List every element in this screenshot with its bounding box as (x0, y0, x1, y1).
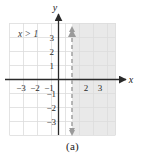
xtick-label-3: 3 (98, 83, 103, 93)
figure-caption: (a) (0, 140, 145, 152)
figure-container: y x x > 1 −3 −2 −1 2 3 3 2 1 −1 −2 −3 (a… (0, 0, 145, 163)
coordinate-plane: y x x > 1 −3 −2 −1 2 3 3 2 1 −1 −2 −3 (0, 0, 145, 140)
xtick-label-neg2: −2 (30, 83, 40, 93)
ytick-label-neg2: −2 (46, 103, 56, 113)
xtick-label-neg3: −3 (16, 83, 26, 93)
x-axis-label: x (128, 74, 134, 85)
ytick-label-3: 3 (50, 33, 55, 43)
y-axis-label: y (52, 2, 58, 13)
graph-svg: y x x > 1 −3 −2 −1 2 3 3 2 1 −1 −2 −3 (0, 0, 145, 140)
ytick-label-neg1: −1 (46, 89, 56, 99)
xtick-label-2: 2 (84, 83, 89, 93)
ytick-label-1: 1 (50, 61, 55, 71)
region-label: x > 1 (17, 29, 38, 39)
ytick-label-2: 2 (50, 47, 55, 57)
ytick-label-neg3: −3 (46, 117, 56, 127)
